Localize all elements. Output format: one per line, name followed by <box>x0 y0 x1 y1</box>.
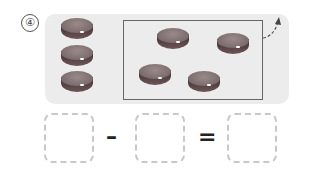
minus-sign: – <box>106 124 117 150</box>
piece-icon <box>188 71 220 93</box>
piece-icon <box>157 28 189 50</box>
piece-icon <box>61 71 93 93</box>
piece-icon <box>139 64 171 86</box>
equals-sign: = <box>198 124 216 150</box>
piece-icon <box>61 18 93 40</box>
answer-box-1[interactable] <box>44 113 94 163</box>
piece-icon <box>217 33 249 55</box>
take-away-arrow-icon <box>262 16 286 42</box>
removed-group-box <box>123 20 263 100</box>
answer-box-2[interactable] <box>135 113 185 163</box>
answer-box-3[interactable] <box>227 113 277 163</box>
piece-icon <box>61 45 93 67</box>
problem-number: ④ <box>21 14 39 32</box>
